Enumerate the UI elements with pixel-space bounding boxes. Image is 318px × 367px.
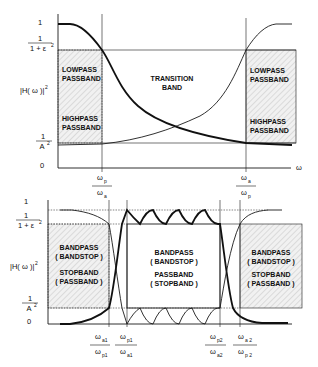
top-ytick-a-den: A <box>39 142 44 151</box>
svg-text:PASSBAND: PASSBAND <box>250 76 289 83</box>
bottom-ytick-one: 1 <box>24 197 28 206</box>
svg-text:ω: ω <box>97 173 103 182</box>
bottom-ytick-eps-sup: 2 <box>39 219 42 225</box>
bottom-ytick-a-num: 1 <box>28 294 32 303</box>
top-ytick-a-num: 1 <box>41 132 45 141</box>
bottom-right-hatched-region <box>240 224 302 308</box>
top-ytick-a-sup: 2 <box>47 140 50 146</box>
bottom-middle-labels: BANDPASS ( BANDSTOP ) PASSBAND ( STOPBAN… <box>150 249 198 288</box>
svg-text:a1: a1 <box>102 337 108 343</box>
bottom-y-axis-label: |H( ω )| <box>10 262 34 271</box>
top-y-axis-label-sup: 2 <box>45 84 48 90</box>
svg-text:ω: ω <box>95 347 101 356</box>
svg-text:ω: ω <box>97 188 103 197</box>
top-chart-lowpass-highpass: 1 1 1 + ε 2 |H( ω )| 2 1 A 2 0 ω ω p ω a… <box>20 14 302 199</box>
top-ytick-eps-num: 1 <box>38 34 42 43</box>
bottom-ytick-zero: 0 <box>27 317 31 326</box>
top-y-axis-label: |H( ω )| <box>20 86 44 95</box>
svg-text:p: p <box>104 178 107 184</box>
svg-text:( STOPBAND ): ( STOPBAND ) <box>150 280 198 288</box>
svg-text:PASSBAND: PASSBAND <box>250 127 289 134</box>
svg-text:ω: ω <box>210 332 216 341</box>
bottom-ytick-a-den: A <box>26 304 31 313</box>
top-xtick-wp: ω p ω a <box>92 173 112 199</box>
svg-text:p 2: p 2 <box>245 352 252 358</box>
svg-text:ω: ω <box>238 347 244 356</box>
bottom-ytick-eps-den: 1 + ε <box>18 221 35 230</box>
svg-text:( BANDSTOP ): ( BANDSTOP ) <box>55 253 103 261</box>
svg-text:BANDPASS: BANDPASS <box>155 249 194 256</box>
svg-text:ω: ω <box>238 332 244 341</box>
svg-text:STOPBAND: STOPBAND <box>251 271 290 278</box>
svg-text:p1: p1 <box>127 337 133 343</box>
svg-text:HIGHPASS: HIGHPASS <box>62 115 98 122</box>
svg-text:BANDPASS: BANDPASS <box>252 249 291 256</box>
bottom-xtick-wp1: ω p1 ω a1 <box>115 332 137 358</box>
bottom-ytick-a-sup: 2 <box>34 302 37 308</box>
top-ytick-zero: 0 <box>40 161 44 170</box>
bottom-chart-bandpass-bandstop: 1 1 1 + ε 2 |H( ω )| 2 1 A 2 0 ω a1 ω p1… <box>10 197 302 358</box>
svg-text:BANDPASS: BANDPASS <box>60 244 99 251</box>
svg-text:a1: a1 <box>127 352 133 358</box>
top-ytick-eps-den: 1 + ε <box>30 44 47 53</box>
top-ytick-eps-sup: 2 <box>51 42 54 48</box>
svg-text:p: p <box>248 193 251 199</box>
svg-text:p1: p1 <box>102 352 108 358</box>
svg-text:PASSBAND: PASSBAND <box>62 75 101 82</box>
bottom-xtick-wa2: ω a 2 ω p 2 <box>233 332 257 358</box>
bottom-y-axis-label-sup: 2 <box>35 260 38 266</box>
svg-text:ω: ω <box>120 347 126 356</box>
filter-response-diagram: 1 1 1 + ε 2 |H( ω )| 2 1 A 2 0 ω ω p ω a… <box>0 0 318 367</box>
bottom-ytick-eps-num: 1 <box>24 211 28 220</box>
svg-text:PASSBAND: PASSBAND <box>62 124 101 131</box>
top-xtick-wa: ω a ω p <box>236 173 256 199</box>
svg-text:ω: ω <box>210 347 216 356</box>
svg-text:a: a <box>104 193 107 199</box>
svg-text:( PASSBAND ): ( PASSBAND ) <box>247 280 294 288</box>
bottom-xtick-wa1: ω a1 ω p1 <box>90 332 110 358</box>
svg-text:a: a <box>248 178 251 184</box>
svg-text:STOPBAND: STOPBAND <box>59 269 98 276</box>
bottom-middle-passband-box <box>127 224 220 308</box>
svg-text:p2: p2 <box>217 337 223 343</box>
bottom-left-hatched-region <box>48 224 109 308</box>
svg-text:LOWPASS: LOWPASS <box>62 66 97 73</box>
bottom-xtick-wp2: ω p2 ω a2 <box>205 332 226 358</box>
svg-text:( BANDSTOP ): ( BANDSTOP ) <box>247 258 295 266</box>
svg-text:ω: ω <box>241 188 247 197</box>
svg-text:a 2: a 2 <box>245 337 252 343</box>
top-x-axis-label: ω <box>296 163 302 172</box>
svg-text:ω: ω <box>95 332 101 341</box>
top-ytick-one: 1 <box>38 18 42 27</box>
svg-text:ω: ω <box>120 332 126 341</box>
svg-text:ω: ω <box>241 173 247 182</box>
svg-text:LOWPASS: LOWPASS <box>250 67 285 74</box>
svg-text:TRANSITION: TRANSITION <box>151 75 194 82</box>
svg-text:a2: a2 <box>217 352 223 358</box>
svg-text:( BANDSTOP ): ( BANDSTOP ) <box>150 258 198 266</box>
top-transition-label: TRANSITION BAND <box>151 75 194 91</box>
svg-text:BAND: BAND <box>162 84 182 91</box>
svg-text:PASSBAND: PASSBAND <box>155 271 194 278</box>
svg-text:( PASSBAND ): ( PASSBAND ) <box>55 278 102 286</box>
svg-text:HIGHPASS: HIGHPASS <box>250 118 286 125</box>
